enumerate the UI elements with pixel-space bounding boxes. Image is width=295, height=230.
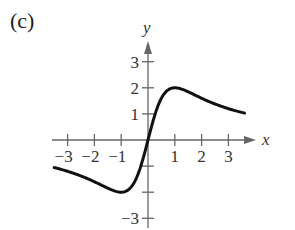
axes	[52, 41, 256, 228]
function-plot: xy−3−2−1123321−3	[0, 0, 295, 230]
y-tick-label: −3	[121, 209, 139, 228]
x-tick-label: −3	[55, 147, 73, 166]
x-tick-label: 3	[224, 147, 233, 166]
x-axis-arrow-icon	[244, 136, 256, 144]
y-tick-label: 1	[131, 105, 140, 124]
x-axis-label: x	[261, 130, 270, 149]
y-tick-label: 3	[131, 53, 140, 72]
x-tick-label: 2	[197, 147, 206, 166]
x-tick-label: −2	[81, 147, 99, 166]
y-axis-arrow-icon	[144, 41, 152, 54]
x-tick-label: −1	[108, 147, 126, 166]
y-tick-label: 2	[131, 79, 140, 98]
tick-labels: xy−3−2−1123321−3	[55, 18, 270, 228]
x-tick-label: 1	[171, 147, 180, 166]
y-axis-label: y	[141, 18, 151, 37]
